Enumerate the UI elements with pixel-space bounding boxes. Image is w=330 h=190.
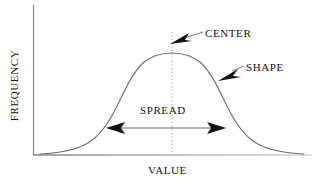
normal-distribution-figure: CENTER SHAPE SPREAD VALUE FREQUENCY	[0, 0, 330, 190]
annotation-label-center: CENTER	[205, 28, 251, 39]
shape-leader-line	[232, 66, 244, 71]
annotation-label-spread: SPREAD	[140, 105, 186, 116]
x-axis-label: VALUE	[148, 165, 187, 176]
y-axis-label: FREQUENCY	[9, 50, 20, 121]
annotation-label-shape: SHAPE	[246, 62, 284, 73]
center-arrowhead-icon	[170, 33, 192, 44]
shape-arrowhead-icon	[218, 69, 241, 81]
figure-canvas	[0, 0, 330, 190]
